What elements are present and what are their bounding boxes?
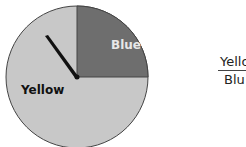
fraction-bar <box>218 70 246 71</box>
fraction-yellow-over-blue: Yello Blu <box>218 54 246 87</box>
yellow-label: Yellow <box>20 83 64 97</box>
fraction-numerator: Yello <box>218 54 246 69</box>
fraction-denominator: Blu <box>218 72 246 87</box>
spinner: Blue Yellow <box>0 0 160 147</box>
pointer-pivot <box>75 75 80 80</box>
blue-label: Blue <box>111 38 141 52</box>
